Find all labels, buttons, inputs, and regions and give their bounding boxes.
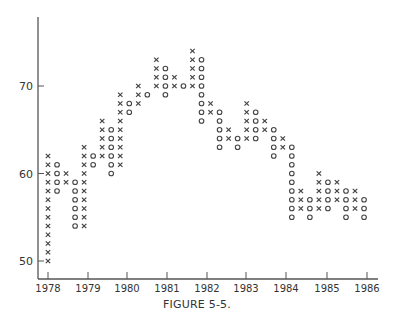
x-mark: [281, 145, 285, 149]
o-mark: [73, 224, 78, 229]
x-mark: [244, 101, 248, 105]
x-mark: [317, 171, 321, 175]
x-mark: [82, 198, 86, 202]
x-mark: [82, 189, 86, 193]
o-mark: [55, 189, 60, 194]
y-axis-ticks: 506070: [19, 80, 44, 268]
x-tick-label: 1979: [75, 283, 100, 294]
o-mark: [326, 189, 331, 194]
o-mark: [362, 197, 367, 202]
o-mark: [308, 215, 313, 220]
x-mark: [118, 93, 122, 97]
x-mark: [118, 145, 122, 149]
x-mark: [118, 136, 122, 140]
x-mark: [118, 154, 122, 158]
o-mark: [199, 75, 204, 80]
o-mark: [109, 162, 114, 167]
x-mark: [299, 198, 303, 202]
o-mark: [199, 84, 204, 89]
x-mark: [46, 180, 50, 184]
x-mark: [190, 58, 194, 62]
x-mark: [64, 171, 68, 175]
o-mark: [290, 145, 295, 150]
x-mark: [46, 241, 50, 245]
x-mark: [353, 206, 357, 210]
o-mark: [145, 92, 150, 97]
x-mark: [64, 180, 68, 184]
o-mark: [362, 215, 367, 220]
o-mark: [253, 136, 258, 141]
x-mark: [46, 189, 50, 193]
x-mark: [118, 163, 122, 167]
x-mark: [244, 128, 248, 132]
x-mark: [172, 75, 176, 79]
x-mark: [118, 128, 122, 132]
o-mark: [109, 136, 114, 141]
x-tick-label: 1984: [273, 283, 298, 294]
o-mark: [55, 171, 60, 176]
o-mark: [235, 136, 240, 141]
x-mark: [208, 110, 212, 114]
o-mark: [271, 145, 276, 150]
x-mark: [263, 119, 267, 123]
x-mark: [46, 171, 50, 175]
x-mark: [317, 180, 321, 184]
o-mark: [290, 180, 295, 185]
x-mark: [82, 215, 86, 219]
o-mark: [271, 154, 276, 159]
x-mark: [317, 189, 321, 193]
x-mark: [208, 101, 212, 105]
axes: [38, 17, 378, 279]
o-mark: [109, 171, 114, 176]
x-mark: [244, 136, 248, 140]
o-mark: [199, 92, 204, 97]
x-mark: [299, 206, 303, 210]
o-mark: [163, 66, 168, 71]
o-mark: [290, 215, 295, 220]
x-mark: [353, 189, 357, 193]
o-mark: [217, 127, 222, 132]
x-mark: [244, 110, 248, 114]
o-mark: [290, 197, 295, 202]
o-mark: [73, 206, 78, 211]
x-mark: [82, 206, 86, 210]
o-mark: [217, 136, 222, 141]
x-mark: [317, 198, 321, 202]
o-mark: [199, 66, 204, 71]
o-mark: [73, 197, 78, 202]
x-mark: [154, 66, 158, 70]
x-mark: [118, 119, 122, 123]
x-mark: [335, 180, 339, 184]
o-mark: [109, 127, 114, 132]
x-mark: [46, 224, 50, 228]
o-mark: [290, 162, 295, 167]
plot-marks: [46, 49, 367, 263]
x-tick-label: 1980: [114, 283, 139, 294]
y-tick-label: 50: [19, 255, 33, 268]
x-mark: [100, 136, 104, 140]
x-tick-label: 1981: [154, 283, 179, 294]
x-mark: [46, 250, 50, 254]
x-mark: [244, 119, 248, 123]
o-mark: [91, 162, 96, 167]
o-mark: [91, 154, 96, 159]
x-mark: [118, 101, 122, 105]
o-mark: [73, 189, 78, 194]
point-and-figure-chart: 506070 197819791980198119821983198419851…: [0, 0, 394, 322]
o-mark: [55, 162, 60, 167]
o-mark: [163, 84, 168, 89]
o-mark: [199, 110, 204, 115]
x-mark: [82, 180, 86, 184]
o-mark: [217, 110, 222, 115]
x-mark: [281, 136, 285, 140]
x-mark: [263, 128, 267, 132]
x-mark: [317, 206, 321, 210]
o-mark: [253, 110, 258, 115]
x-tick-label: 1982: [194, 283, 219, 294]
x-mark: [82, 163, 86, 167]
x-tick-label: 1978: [35, 283, 60, 294]
x-tick-label: 1983: [233, 283, 258, 294]
o-mark: [127, 101, 132, 106]
x-mark: [100, 154, 104, 158]
o-mark: [326, 180, 331, 185]
